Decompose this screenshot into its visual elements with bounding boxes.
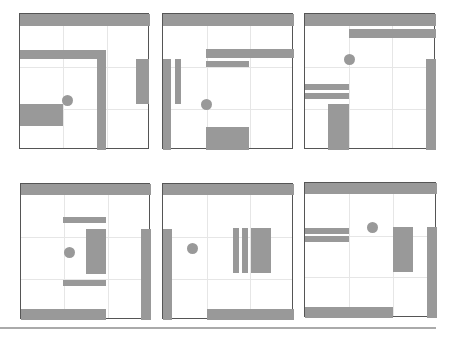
- wall-block: [141, 229, 151, 320]
- wall-block: [86, 229, 106, 274]
- wall-block: [163, 184, 294, 195]
- wall-block: [206, 127, 249, 150]
- wall-block: [97, 50, 106, 150]
- grid-line-vertical: [207, 184, 208, 318]
- grid-panel-2: [162, 13, 293, 149]
- wall-block: [242, 228, 248, 273]
- grid-line-vertical: [349, 183, 350, 316]
- grid-line-horizontal: [305, 109, 434, 110]
- wall-block: [305, 307, 393, 318]
- wall-block: [305, 236, 349, 242]
- wall-block: [21, 309, 106, 320]
- agent-dot: [344, 54, 355, 65]
- grid-panel-5: [162, 183, 293, 319]
- wall-block: [349, 29, 436, 38]
- wall-block: [305, 93, 349, 99]
- grid-line-vertical: [107, 14, 108, 148]
- wall-block: [305, 228, 349, 234]
- grid-line-horizontal: [21, 237, 149, 238]
- grid-line-horizontal: [163, 109, 292, 110]
- grid-line-vertical: [108, 184, 109, 318]
- wall-block: [63, 217, 106, 223]
- wall-block: [20, 104, 63, 126]
- wall-block: [426, 59, 436, 150]
- wall-block: [328, 104, 349, 150]
- wall-block: [206, 61, 249, 67]
- grid-line-horizontal: [163, 279, 292, 280]
- agent-dot: [201, 99, 212, 110]
- grid-line-vertical: [63, 14, 64, 148]
- grid-panel-1: [19, 13, 149, 149]
- grid-line-horizontal: [305, 67, 434, 68]
- agent-dot: [64, 247, 75, 258]
- wall-block: [305, 84, 349, 90]
- grid-line-horizontal: [163, 67, 292, 68]
- divider-line: [0, 327, 436, 329]
- wall-block: [136, 59, 149, 104]
- wall-block: [163, 14, 294, 26]
- wall-block: [20, 14, 150, 26]
- wall-block: [20, 50, 106, 59]
- wall-block: [233, 228, 239, 273]
- wall-block: [305, 183, 437, 194]
- wall-block: [63, 280, 106, 286]
- agent-dot: [62, 95, 73, 106]
- wall-block: [427, 227, 437, 318]
- grid-line-horizontal: [305, 277, 435, 278]
- grid-panel-4: [20, 183, 150, 319]
- grid-panel-3: [304, 13, 435, 149]
- wall-block: [163, 59, 171, 150]
- grid-line-horizontal: [20, 67, 148, 68]
- agent-dot: [367, 222, 378, 233]
- grid-panel-6: [304, 182, 436, 317]
- grid-line-horizontal: [163, 237, 292, 238]
- wall-block: [207, 309, 294, 320]
- wall-block: [21, 184, 151, 195]
- wall-block: [163, 229, 172, 320]
- wall-block: [251, 228, 271, 273]
- agent-dot: [187, 243, 198, 254]
- wall-block: [305, 14, 436, 26]
- wall-block: [175, 59, 181, 104]
- grid-line-vertical: [250, 14, 251, 148]
- wall-block: [206, 49, 294, 58]
- wall-block: [393, 227, 413, 272]
